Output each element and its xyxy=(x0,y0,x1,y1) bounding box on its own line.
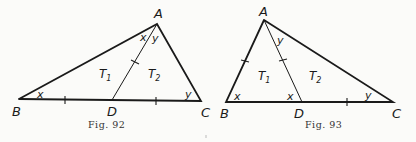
angle-b-label: x xyxy=(233,90,241,103)
figure-93-caption: Fig. 93 xyxy=(305,119,342,130)
vertex-d-label: D xyxy=(107,104,117,119)
angle-a-label: y xyxy=(276,34,284,47)
region-t2-label: T2 xyxy=(309,69,321,85)
region-t2-label: T2 xyxy=(148,67,160,83)
angle-d-label: x xyxy=(286,90,294,103)
vertex-a-label: A xyxy=(258,4,268,19)
geometry-figures: A B D C x y x y T1 T2 Fig. 92 A B D C y … xyxy=(0,0,416,142)
figure-93: A B D C y x x y T1 T2 Fig. 93 xyxy=(220,4,402,130)
region-t1-label: T1 xyxy=(258,69,270,85)
figure-92: A B D C x y x y T1 T2 Fig. 92 xyxy=(12,6,211,130)
angle-a-right-label: y xyxy=(151,32,159,45)
angle-c-label: y xyxy=(364,89,372,102)
vertex-b-label: B xyxy=(12,104,21,119)
angle-c-label: y xyxy=(184,88,192,101)
triangle-abc xyxy=(19,24,201,101)
vertex-d-label: D xyxy=(294,106,304,121)
region-t1-label: T1 xyxy=(99,67,111,83)
figure-92-caption: Fig. 92 xyxy=(88,119,125,130)
vertex-b-label: B xyxy=(220,106,229,121)
vertex-c-label: C xyxy=(392,106,402,121)
vertex-c-label: C xyxy=(201,105,211,120)
angle-b-label: x xyxy=(36,88,44,101)
angle-a-left-label: x xyxy=(139,31,147,44)
vertex-a-label: A xyxy=(153,6,163,21)
